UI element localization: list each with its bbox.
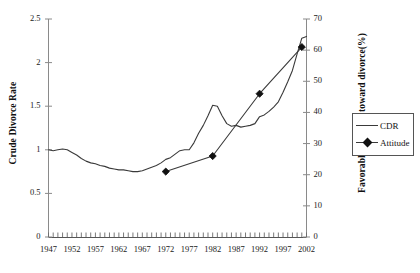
right-tick-label-30: 30	[314, 138, 338, 148]
x-axis-ticks	[49, 233, 307, 238]
left-tick-label-2: 2	[17, 57, 41, 67]
right-tick-label-40: 40	[314, 106, 338, 116]
left-tick-label-0.5: 0.5	[17, 187, 41, 197]
left-tick-label-0: 0	[17, 231, 41, 241]
left-axis-title: Crude Divorce Rate	[8, 63, 18, 183]
legend-line-diamond-swatch-attitude	[356, 137, 378, 149]
series-line-cdr	[49, 36, 307, 171]
right-tick-label-50: 50	[314, 75, 338, 85]
left-tick-label-2.5: 2.5	[17, 13, 41, 23]
right-tick-label-70: 70	[314, 13, 338, 23]
legend-label-cdr: CDR	[378, 121, 399, 131]
x-tick-label-2002: 2002	[292, 244, 322, 254]
chart-legend: CDR Attitude	[352, 113, 414, 156]
legend-label-attitude: Attitude	[378, 138, 410, 148]
diamond-marker-icon	[363, 138, 373, 148]
series-line-attitude	[166, 47, 302, 172]
series-markers-attitude	[162, 43, 305, 175]
legend-line-swatch-cdr	[356, 120, 378, 132]
chart-figure: Crude Divorce Rate Favorable Attitude to…	[0, 0, 420, 273]
left-tick-label-1.5: 1.5	[17, 100, 41, 110]
left-tick-label-1: 1	[17, 144, 41, 154]
right-tick-label-60: 60	[314, 44, 338, 54]
legend-item-cdr[interactable]: CDR	[356, 119, 399, 133]
right-tick-label-10: 10	[314, 200, 338, 210]
right-tick-label-20: 20	[314, 169, 338, 179]
legend-item-attitude[interactable]: Attitude	[356, 136, 410, 150]
right-tick-label-0: 0	[314, 231, 338, 241]
